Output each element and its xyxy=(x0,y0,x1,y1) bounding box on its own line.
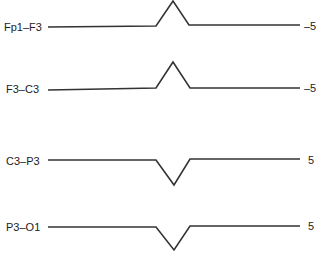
polarity-label-fp1-f3: –5 xyxy=(304,20,316,32)
channel-label-fp1-f3: Fp1–F3 xyxy=(4,21,42,33)
channel-label-p3-o1: P3–O1 xyxy=(6,221,40,233)
trace-c3-p3 xyxy=(48,159,300,185)
eeg-traces xyxy=(0,0,321,256)
channel-label-c3-p3: C3–P3 xyxy=(6,155,40,167)
trace-f3-c3 xyxy=(48,62,300,90)
polarity-label-p3-o1: 5 xyxy=(308,220,314,232)
polarity-label-f3-c3: –5 xyxy=(304,82,316,94)
channel-label-f3-c3: F3–C3 xyxy=(6,83,39,95)
trace-fp1-f3 xyxy=(48,1,300,27)
polarity-label-c3-p3: 5 xyxy=(308,154,314,166)
trace-p3-o1 xyxy=(48,226,300,250)
